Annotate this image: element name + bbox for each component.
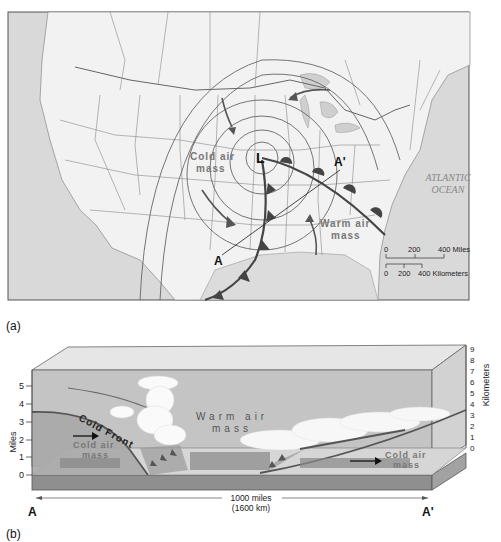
right-tick-9: 9 [470, 345, 475, 354]
ocean-label: ATLANTIC [424, 172, 471, 183]
cross-section: 0 1 2 3 4 5 Miles 0 1 2 3 4 5 6 7 8 9 Ki… [8, 345, 491, 519]
scale-mi-400: 400 Miles [438, 245, 470, 254]
caption-a: (a) [6, 319, 21, 333]
cold-air-right-2: mass [393, 460, 420, 470]
section-start-b: A [28, 505, 37, 519]
section-end-label: A' [334, 155, 346, 169]
scale-mi-0: 0 [384, 245, 388, 254]
right-tick-2: 2 [470, 422, 475, 431]
left-tick-3: 3 [19, 417, 24, 427]
scale-mi-200: 200 [408, 245, 421, 254]
distance-label-km: (1600 km) [232, 503, 270, 513]
right-tick-0: 0 [470, 444, 475, 453]
warm-air-label-2: mass [212, 423, 252, 434]
cold-air-mass-label: Cold air [190, 151, 235, 162]
cold-air-left-2: mass [82, 450, 109, 460]
left-tick-4: 4 [19, 399, 24, 409]
distance-label: 1000 miles [230, 493, 271, 503]
low-pressure-label: L [256, 150, 265, 166]
left-tick-2: 2 [19, 435, 24, 445]
warm-air-mass-label-2: mass [331, 230, 361, 241]
left-tick-1: 1 [19, 452, 24, 462]
cold-air-mass-label-2: mass [196, 163, 226, 174]
right-tick-7: 7 [470, 367, 475, 376]
left-tick-0: 0 [19, 470, 24, 480]
weather-map: Cold air mass L A' A Warm air mass ATLAN… [8, 12, 471, 300]
warm-air-label: Warm air [196, 411, 268, 422]
right-axis-title: Kilometers [481, 363, 491, 406]
figure: Cold air mass L A' A Warm air mass ATLAN… [0, 0, 501, 542]
right-tick-1: 1 [470, 433, 475, 442]
left-tick-5: 5 [19, 381, 24, 391]
caption-b: (b) [6, 527, 21, 541]
scale-km-200: 200 [398, 269, 411, 278]
cold-air-right: Cold air [385, 450, 427, 460]
right-tick-4: 4 [470, 400, 475, 409]
warm-air-mass-label: Warm air [320, 218, 370, 229]
ocean-label-2: OCEAN [432, 184, 466, 195]
section-start-label: A [214, 254, 223, 268]
right-tick-8: 8 [470, 356, 475, 365]
scale-km-0: 0 [384, 269, 388, 278]
left-axis-title: Miles [8, 431, 18, 453]
right-tick-5: 5 [470, 389, 475, 398]
right-tick-3: 3 [470, 411, 475, 420]
section-end-b: A' [422, 505, 434, 519]
cold-air-left: Cold air [73, 440, 115, 450]
scale-km-400: 400 Kilometers [418, 269, 468, 278]
right-tick-6: 6 [470, 378, 475, 387]
